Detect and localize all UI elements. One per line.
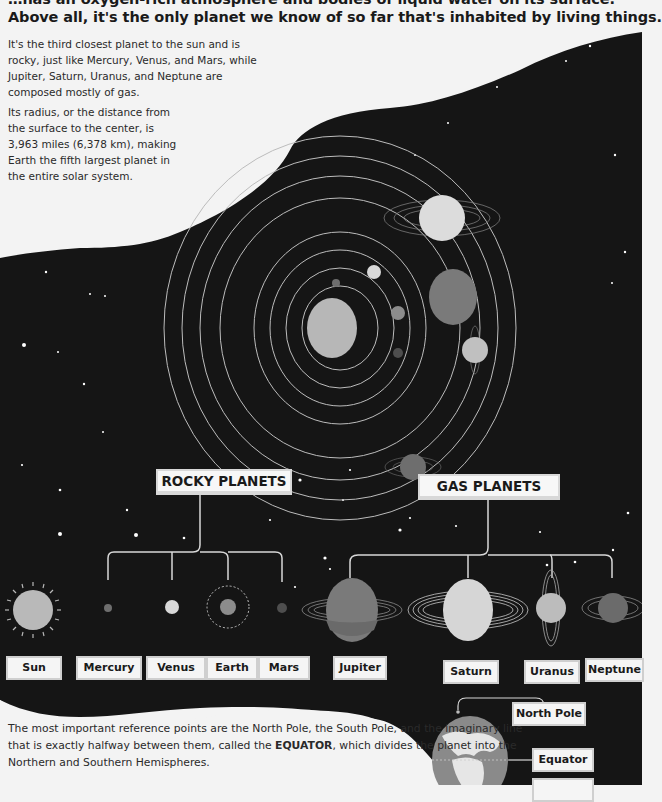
gas-planets-label: GAS PLANETS bbox=[418, 474, 560, 500]
orbit-jupiter bbox=[429, 269, 477, 325]
row-venus bbox=[165, 600, 179, 614]
row-mercury bbox=[104, 604, 112, 612]
label-venus: Venus bbox=[146, 656, 206, 680]
label-saturn: Saturn bbox=[443, 660, 499, 684]
label-earth: Earth bbox=[206, 656, 258, 680]
orbit-earth bbox=[391, 306, 405, 320]
row-mars bbox=[277, 603, 287, 613]
orbit-mars bbox=[393, 348, 403, 358]
orbit-mercury bbox=[332, 279, 340, 287]
label-north-pole: North Pole bbox=[512, 702, 586, 726]
row-sun bbox=[5, 582, 61, 638]
equator-term: EQUATOR bbox=[275, 739, 332, 752]
headline-line-1: …has an oxygen-rich atmosphere and bodie… bbox=[8, 0, 615, 7]
orbit-sun bbox=[307, 298, 357, 358]
paragraph-reference-points: The most important reference points are … bbox=[8, 720, 528, 771]
label-mars: Mars bbox=[258, 656, 310, 680]
label-jupiter: Jupiter bbox=[333, 656, 387, 680]
label-neptune: Neptune bbox=[585, 658, 644, 682]
label-south-pole bbox=[532, 778, 594, 802]
orbit-venus bbox=[367, 265, 381, 279]
label-mercury: Mercury bbox=[76, 656, 142, 680]
paragraph-radius: Its radius, or the distance from the sur… bbox=[8, 104, 178, 184]
headline-line-2: Above all, it's the only planet we know … bbox=[8, 9, 662, 25]
rocky-planets-label: ROCKY PLANETS bbox=[156, 469, 292, 495]
label-uranus: Uranus bbox=[524, 660, 580, 684]
label-sun: Sun bbox=[6, 656, 62, 680]
paragraph-rocky-vs-gas: It's the third closest planet to the sun… bbox=[8, 36, 258, 100]
label-equator: Equator bbox=[532, 748, 594, 772]
